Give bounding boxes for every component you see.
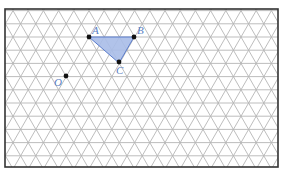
label-o: O bbox=[54, 76, 62, 88]
label-b: B bbox=[137, 24, 144, 36]
point-c: C bbox=[116, 60, 124, 76]
label-a: A bbox=[91, 24, 99, 36]
point-o: O bbox=[54, 74, 68, 88]
isometric-grid-figure: A B C O bbox=[0, 0, 283, 176]
label-c: C bbox=[116, 64, 124, 76]
